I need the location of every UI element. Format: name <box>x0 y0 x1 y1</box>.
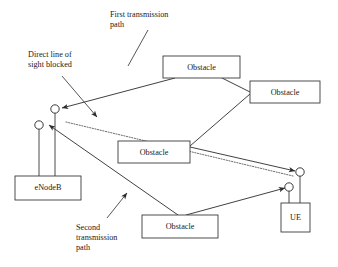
annotation-direct-line-blocked: Direct line of sight blocked <box>28 50 72 69</box>
second-path-label-line1: Second <box>76 223 100 232</box>
diagram-svg: Obstacle Obstacle Obstacle Obstacle eNod… <box>0 0 338 267</box>
first-path-segment-obstacle2-to-obstacle3 <box>190 94 250 146</box>
first-path-label-line1: First transmission <box>110 10 168 19</box>
second-path-segment-obstacle4-to-enodeb <box>49 125 178 215</box>
blocked-label-line1: Direct line of <box>28 50 72 59</box>
blocked-leader-line <box>62 76 97 117</box>
annotation-first-transmission-path: First transmission path <box>110 10 168 29</box>
second-path-segment-obstacle4-to-ue <box>186 188 285 215</box>
ue-label: UE <box>290 213 301 222</box>
ue-antenna-2-icon <box>285 183 293 191</box>
obstacle-2: Obstacle <box>250 81 320 103</box>
first-path-segment-obstacle1-to-obstacle2 <box>222 78 250 92</box>
enodeb-node: eNodeB <box>15 105 81 200</box>
ue-antenna-1-icon <box>296 168 304 176</box>
first-path-leader-line <box>128 30 148 66</box>
obstacle-1-label: Obstacle <box>187 63 216 72</box>
ue-node: UE <box>281 168 310 232</box>
enodeb-antenna-1-icon <box>51 105 59 113</box>
obstacle-3-label: Obstacle <box>140 148 169 157</box>
first-path-segment-obstacle1-to-enodeb <box>62 78 175 108</box>
second-path-label-line3: path <box>76 243 90 252</box>
obstacle-2-label: Obstacle <box>271 88 300 97</box>
obstacle-4-label: Obstacle <box>166 222 195 231</box>
enodeb-label: eNodeB <box>35 183 62 192</box>
first-path-label-line2: path <box>110 20 124 29</box>
second-path-leader-line <box>107 193 127 218</box>
enodeb-antenna-2-icon <box>35 121 43 129</box>
obstacle-4: Obstacle <box>142 215 218 238</box>
second-path-label-line2: transmission <box>76 233 117 242</box>
first-path-segment-obstacle3-to-ue <box>190 147 295 171</box>
annotation-second-transmission-path: Second transmission path <box>76 223 117 252</box>
blocked-label-line2: sight blocked <box>28 60 72 69</box>
obstacle-1: Obstacle <box>163 56 240 78</box>
diagram-canvas: Obstacle Obstacle Obstacle Obstacle eNod… <box>0 0 338 267</box>
obstacle-3: Obstacle <box>118 141 190 163</box>
